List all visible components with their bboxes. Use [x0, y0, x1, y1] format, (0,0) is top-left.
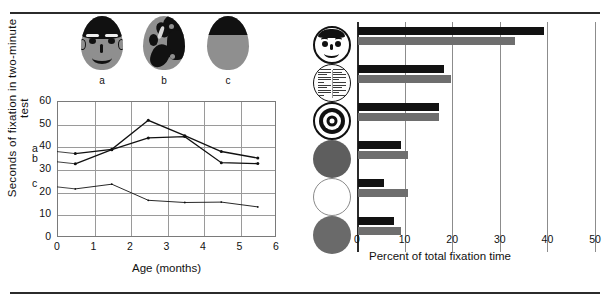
stimulus-line-drawing-face — [313, 26, 351, 64]
plain-white-circle — [313, 178, 351, 216]
x-tick-label: 5 — [233, 240, 247, 252]
bar-newsprint-gray-bar — [358, 75, 451, 83]
stimulus-scrambled-face: b — [136, 16, 192, 86]
data-point-a — [220, 150, 223, 153]
face-oval-b — [143, 16, 185, 70]
stimulus-half-black-oval: c — [200, 16, 256, 86]
eye-left-icon — [322, 41, 328, 47]
data-point-b — [183, 135, 186, 138]
leader-line-a — [57, 151, 75, 154]
data-point-c — [147, 199, 149, 201]
face-oval-c — [207, 16, 249, 70]
leader-line-b — [57, 161, 75, 164]
left-panel: a b c — [0, 0, 305, 303]
data-point-c — [257, 206, 259, 208]
data-point-c — [220, 201, 222, 203]
stimuli-row-left: a b c — [62, 16, 262, 92]
bar-bullseye-gray-bar — [358, 113, 439, 121]
plain-red-circle — [313, 140, 351, 178]
scramble-blob-3 — [148, 42, 173, 70]
bar-newsprint-black-bar — [358, 65, 444, 73]
y-tick-label: 60 — [31, 94, 51, 106]
face-oval-a — [81, 16, 123, 70]
data-point-a — [147, 119, 150, 122]
bar-white-gray-bar — [358, 189, 408, 197]
gridline-vertical — [500, 22, 501, 252]
bar-white-black-bar — [358, 179, 384, 187]
x-tick-label: 40 — [539, 233, 555, 245]
stimulus-label-c: c — [200, 75, 256, 86]
line-chart-y-axis-label: Seconds of fixation in two-minute test — [6, 8, 30, 208]
gridline-vertical — [595, 22, 596, 252]
bar-chart-plot-area — [357, 22, 557, 252]
stimulus-schematic-face: a — [74, 16, 130, 86]
figure-root: a b c — [0, 0, 610, 303]
series-tag-c: c — [32, 177, 37, 189]
scramble-dot-2 — [170, 54, 175, 59]
scramble-dot-1 — [169, 24, 174, 29]
y-tick-label: 30 — [31, 162, 51, 174]
bar-bullseye-black-bar — [358, 103, 439, 111]
mouth-icon — [324, 49, 339, 58]
gridline-vertical — [452, 22, 453, 252]
newsprint-circle — [313, 64, 351, 102]
ear-right-icon — [118, 39, 123, 50]
x-tick-label: 20 — [444, 233, 460, 245]
ear-left-icon — [81, 39, 86, 50]
plain-yellow-circle — [313, 216, 351, 254]
x-tick-label: 0 — [50, 240, 64, 252]
bar-red-gray-bar — [358, 151, 408, 159]
mouth-icon — [92, 52, 112, 64]
stimulus-plain-red-circle — [313, 140, 351, 178]
x-tick-label: 3 — [160, 240, 174, 252]
y-tick-label: 10 — [31, 207, 51, 219]
x-tick-label: 0 — [349, 233, 365, 245]
bullseye-circle — [313, 102, 351, 140]
eye-right-icon — [335, 41, 341, 47]
eye-right-icon — [108, 38, 115, 44]
newsprint-column-right — [333, 69, 346, 99]
newsprint-column-left — [318, 69, 331, 99]
line-series-c — [75, 184, 257, 207]
data-point-b — [110, 148, 113, 151]
line-chart-series-layer — [57, 101, 276, 237]
bar-yellow-black-bar — [358, 217, 394, 225]
bar-face-black-bar — [358, 27, 544, 35]
data-point-a — [256, 157, 259, 160]
bar-face-gray-bar — [358, 37, 515, 45]
line-series-a — [75, 120, 257, 158]
stimulus-label-a: a — [74, 75, 130, 86]
x-tick-label: 6 — [269, 240, 283, 252]
leader-line-c — [57, 186, 75, 189]
eyebrow-right-icon — [105, 34, 118, 37]
data-point-c — [184, 202, 186, 204]
y-tick-label: 0 — [31, 230, 51, 242]
stimulus-bullseye-circle — [313, 102, 351, 140]
x-tick-label: 10 — [397, 233, 413, 245]
bar-chart-x-axis-label: Percent of total fixation time — [315, 250, 565, 262]
series-tag-b: b — [32, 152, 38, 164]
x-tick-label: 50 — [587, 233, 603, 245]
data-point-b — [220, 161, 223, 164]
x-tick-label: 4 — [196, 240, 210, 252]
eye-left-icon — [89, 38, 96, 44]
gridline-vertical — [547, 22, 548, 252]
x-tick-label: 2 — [123, 240, 137, 252]
gridline-vertical — [405, 22, 406, 252]
data-point-b — [147, 136, 150, 139]
y-tick-label: 50 — [31, 117, 51, 129]
right-panel: 01020304050 Percent of total fixation ti… — [305, 0, 610, 303]
stimulus-plain-yellow-circle — [313, 216, 351, 254]
data-point-b — [256, 162, 259, 165]
line-face-circle — [313, 26, 351, 64]
data-point-c — [111, 183, 113, 185]
bar-red-black-bar — [358, 141, 401, 149]
line-chart-x-axis-label: Age (months) — [57, 262, 276, 274]
eyebrow-left-icon — [86, 34, 99, 37]
x-tick-label: 30 — [492, 233, 508, 245]
oval-black-half — [207, 16, 249, 35]
stimulus-plain-white-circle — [313, 178, 351, 216]
stimulus-label-b: b — [136, 75, 192, 86]
stimulus-newsprint-circle — [313, 64, 351, 102]
x-tick-label: 1 — [87, 240, 101, 252]
